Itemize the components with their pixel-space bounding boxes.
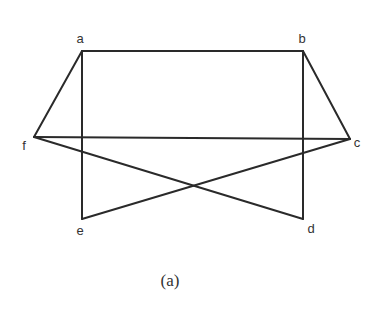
edge-b-c [303,51,350,139]
edge-c-e [82,139,350,219]
vertex-label-d: d [307,221,314,236]
edge-a-f [34,51,82,137]
figure-caption: (a) [161,271,180,290]
vertex-label-b: b [298,31,305,46]
edge-f-d [34,137,303,219]
vertex-label-f: f [22,138,26,153]
edges-group [34,51,350,219]
vertex-label-e: e [76,223,83,238]
vertex-label-a: a [76,31,84,46]
vertex-label-c: c [354,135,361,150]
graph-diagram: abcdef (a) [0,0,378,309]
